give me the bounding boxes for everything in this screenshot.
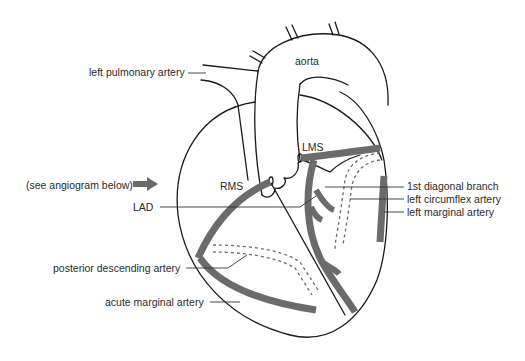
- diagonal-branch-2: [311, 207, 322, 220]
- label-posterior-descending-artery: posterior descending artery: [53, 262, 181, 274]
- first-diagonal-vessel: [316, 190, 334, 210]
- left-marginal-vessel: [380, 176, 384, 242]
- label-lms: LMS: [302, 141, 324, 153]
- label-rms: RMS: [220, 180, 243, 192]
- label-aorta: aorta: [295, 55, 319, 67]
- left-circumflex-dotted-2: [343, 160, 380, 245]
- label-left-circumflex-artery: left circumflex artery: [407, 193, 502, 205]
- right-coronary-artery: [198, 182, 270, 258]
- label-acute-marginal-artery: acute marginal artery: [105, 296, 204, 308]
- lad-vessel: [308, 160, 355, 312]
- coronary-artery-diagram: aorta left pulmonary artery LMS RMS (see…: [0, 0, 525, 361]
- right-arrow-icon: [133, 177, 158, 191]
- left-circumflex-dotted: [335, 153, 380, 250]
- label-lad: LAD: [133, 201, 154, 213]
- label-see-angiogram: (see angiogram below): [26, 179, 133, 191]
- aorta-inner: [300, 77, 348, 85]
- label-left-marginal-artery: left marginal artery: [407, 206, 495, 218]
- aorta-descending-left: [255, 72, 262, 195]
- label-left-pulmonary-artery: left pulmonary artery: [89, 66, 185, 78]
- label-first-diagonal-branch: 1st diagonal branch: [407, 180, 499, 192]
- posterior-descending-dotted-2: [213, 252, 312, 295]
- aorta-arch: [258, 34, 388, 105]
